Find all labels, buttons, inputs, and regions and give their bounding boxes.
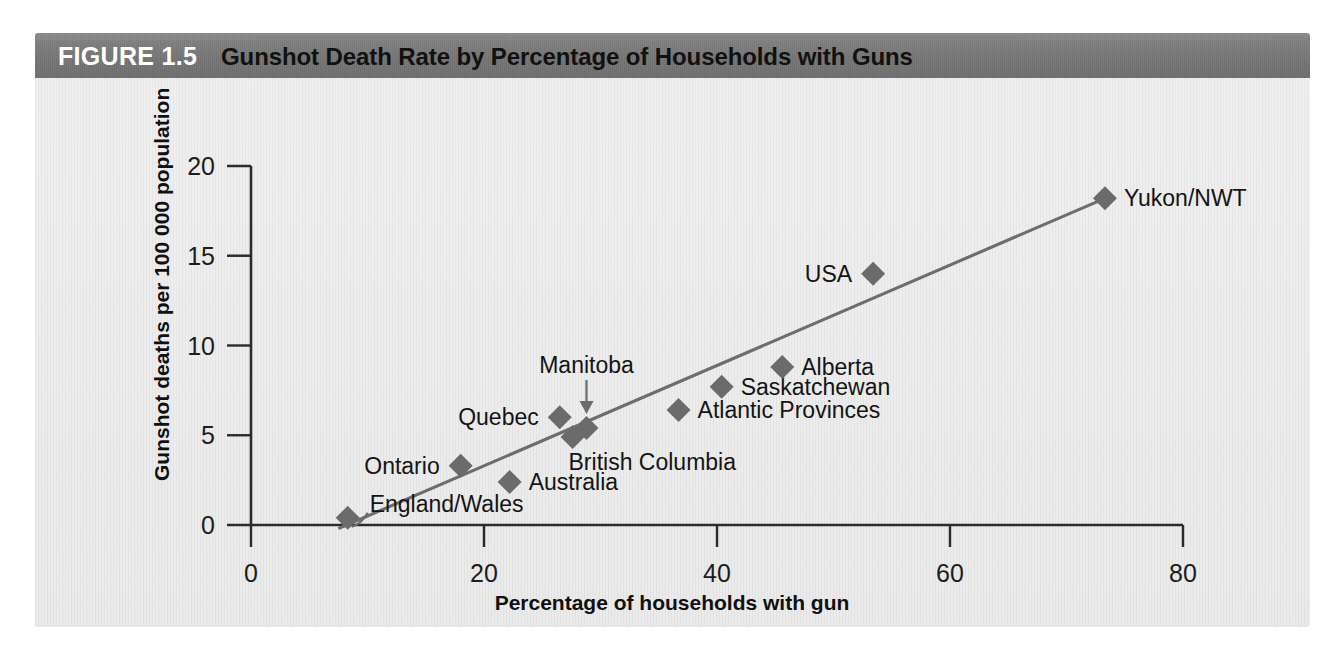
figure-title: Gunshot Death Rate by Percentage of Hous… [221, 43, 913, 71]
data-point[interactable]: Yukon/NWT [1093, 185, 1247, 211]
y-tick-label: 5 [201, 421, 215, 449]
data-point-label: Ontario [364, 453, 439, 479]
data-point-label: Atlantic Provinces [698, 397, 881, 423]
y-tick-label: 10 [187, 332, 215, 360]
data-point-label: British Columbia [569, 449, 737, 475]
data-points-group: England/WalesOntarioAustraliaQuebecBriti… [336, 185, 1247, 530]
chart-plot-area: Gunshot deaths per 100 000 population Pe… [35, 78, 1310, 627]
data-point[interactable]: Ontario [364, 453, 472, 479]
data-point-marker [548, 405, 572, 429]
x-tick-label: 40 [703, 559, 731, 587]
data-point-marker [667, 398, 691, 422]
y-axis-title: Gunshot deaths per 100 000 population [150, 88, 173, 481]
data-point-label: Yukon/NWT [1124, 185, 1247, 211]
figure-header-band: FIGURE 1.5 Gunshot Death Rate by Percent… [35, 33, 1310, 78]
data-point-label: England/Wales [370, 491, 524, 517]
tick-labels-group: 02040608005101520 [187, 152, 1197, 587]
manitoba-arrow-head [580, 401, 594, 414]
data-point[interactable]: Atlantic Provinces [667, 397, 881, 423]
data-point-label: Quebec [458, 404, 539, 430]
regression-line [338, 198, 1105, 528]
data-point[interactable]: Manitoba [539, 352, 634, 440]
y-tick-label: 15 [187, 242, 215, 270]
x-tick-label: 20 [470, 559, 498, 587]
y-tick-label: 20 [187, 152, 215, 180]
scatter-chart: Gunshot deaths per 100 000 population Pe… [35, 78, 1310, 627]
figure-container: FIGURE 1.5 Gunshot Death Rate by Percent… [35, 33, 1310, 627]
x-tick-label: 60 [936, 559, 964, 587]
y-tick-label: 0 [201, 511, 215, 539]
data-point-marker [1093, 186, 1117, 210]
data-point-marker [710, 375, 734, 399]
data-point-marker [449, 454, 473, 478]
data-point-label: USA [805, 261, 853, 287]
data-point[interactable]: USA [805, 261, 885, 287]
figure-number-label: FIGURE 1.5 [58, 42, 197, 71]
x-axis-title: Percentage of households with gun [495, 591, 850, 614]
x-tick-label: 0 [244, 559, 258, 587]
data-point-label: Manitoba [539, 352, 634, 378]
data-point[interactable]: Quebec [458, 404, 572, 430]
trend-line [338, 198, 1105, 528]
data-point-marker [861, 262, 885, 286]
x-tick-label: 80 [1169, 559, 1197, 587]
data-point-label: Alberta [801, 354, 874, 380]
